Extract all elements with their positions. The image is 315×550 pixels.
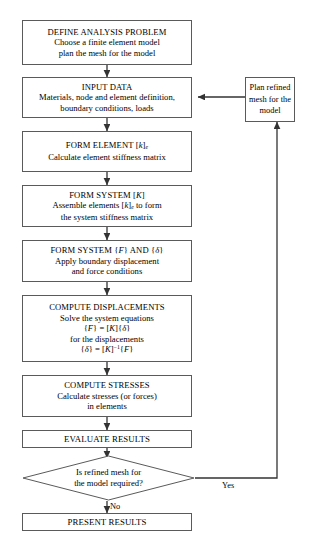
node-form-system-k-line2-pre: Assemble elements [ — [52, 200, 124, 210]
node-compute-displacements-title: COMPUTE DISPLACEMENTS — [49, 302, 165, 312]
node-compute-stresses-title: COMPUTE STRESSES — [64, 380, 149, 390]
node-form-system-k-title-pre: FORM SYSTEM [ — [69, 190, 136, 200]
node-input-data: INPUT DATA Materials, node and element d… — [22, 77, 192, 118]
node-form-element-line2: Calculate element stiffness matrix — [48, 152, 166, 162]
node-define-line2: Choose a finite element model — [54, 37, 160, 47]
node-form-element-title: FORM ELEMENT [k]e — [66, 140, 148, 152]
node-form-system-fd-line2: Apply boundary displacement — [55, 256, 159, 266]
node-decision-refined-mesh: Is refined mesh for the model required? — [22, 455, 195, 501]
node-form-system-k-line3: the system stiffness matrix — [61, 212, 153, 222]
node-plan-refined-line3: model — [259, 105, 280, 116]
node-form-system-force-displacement: FORM SYSTEM {F} AND {δ} Apply boundary d… — [22, 240, 192, 282]
eq2-eq: } = [ — [89, 344, 105, 354]
node-input-line2: Materials, node and element definition, — [39, 92, 175, 102]
node-form-element-title-pre: FORM ELEMENT [ — [66, 140, 139, 150]
node-form-element: FORM ELEMENT [k]e Calculate element stif… — [22, 131, 192, 172]
node-decision-line1: Is refined mesh for — [74, 467, 143, 478]
node-form-system-k-line2-tail: to form — [134, 200, 162, 210]
node-present-results-title: PRESENT RESULTS — [68, 517, 147, 528]
node-form-system-fd-title: FORM SYSTEM {F} AND {δ} — [50, 245, 163, 255]
node-form-system-k: FORM SYSTEM [K] Assemble elements [k]e t… — [22, 185, 192, 227]
node-evaluate-results: EVALUATE RESULTS — [22, 430, 192, 448]
node-form-system-fd-title-pre: FORM SYSTEM { — [50, 245, 118, 255]
node-evaluate-results-title: EVALUATE RESULTS — [64, 434, 150, 445]
node-form-system-k-line2: Assemble elements [k]e to form — [52, 200, 161, 212]
node-compute-displacements-line4: for the displacements — [70, 334, 144, 344]
node-decision-line2: the model required? — [74, 478, 143, 489]
node-plan-refined-line2: mesh for the — [249, 94, 291, 105]
node-input-title: INPUT DATA — [82, 82, 133, 92]
node-define-analysis-problem: DEFINE ANALYSIS PROBLEM Choose a finite … — [22, 20, 192, 65]
node-present-results: PRESENT RESULTS — [22, 513, 192, 531]
edge-label-no: No — [110, 502, 120, 511]
node-define-title: DEFINE ANALYSIS PROBLEM — [48, 27, 167, 37]
flowchart-canvas: DEFINE ANALYSIS PROBLEM Choose a finite … — [0, 0, 315, 550]
node-plan-refined-mesh: Plan refined mesh for the model — [245, 77, 295, 122]
connector-decision-yes-to-plan-refined — [195, 122, 277, 478]
node-form-system-fd-title-mid: } AND { — [124, 245, 155, 255]
node-compute-stresses-line3: in elements — [87, 401, 127, 411]
node-compute-displacements-line2: Solve the system equations — [60, 313, 154, 323]
node-define-line3: plan the mesh for the model — [59, 48, 156, 58]
node-form-system-k-title: FORM SYSTEM [K] — [69, 190, 145, 200]
node-compute-stresses-line2: Calculate stresses (or forces) — [57, 391, 157, 401]
edge-label-yes: Yes — [222, 481, 234, 490]
node-compute-displacements-equation-2: {δ} = [K]−1{F} — [81, 344, 134, 354]
node-form-system-k-title-post: ] — [142, 190, 145, 200]
node-compute-displacements: COMPUTE DISPLACEMENTS Solve the system e… — [22, 295, 192, 362]
node-form-element-title-sub: e — [146, 145, 149, 151]
eq1-eq: } = [ — [93, 323, 109, 333]
node-compute-stresses: COMPUTE STRESSES Calculate stresses (or … — [22, 375, 192, 417]
node-compute-displacements-equation-1: {F} = [K]{δ} — [84, 323, 131, 333]
node-decision-text: Is refined mesh for the model required? — [74, 467, 143, 489]
eq1-close: } — [126, 323, 130, 333]
node-plan-refined-line1: Plan refined — [250, 82, 291, 93]
node-input-line3: boundary conditions, loads — [60, 103, 153, 113]
eq2-close: } — [129, 344, 133, 354]
node-form-system-fd-line3: and force conditions — [72, 266, 143, 276]
node-form-system-fd-title-post: } — [159, 245, 163, 255]
